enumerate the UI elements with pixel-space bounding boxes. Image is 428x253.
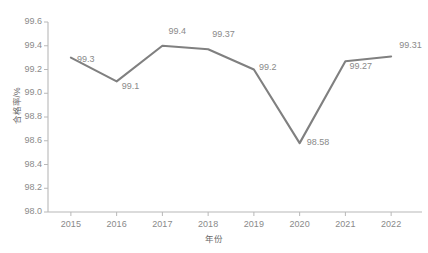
data-point-label: 99.37 [212,29,235,39]
x-tick-label: 2015 [46,219,96,229]
line-chart: 98.098.298.498.698.899.099.299.499.6 201… [0,0,428,253]
y-tick-label: 99.6 [2,16,42,26]
x-tick-label: 2019 [229,219,279,229]
x-tick-label: 2018 [183,219,233,229]
data-point-label: 99.2 [259,62,277,72]
x-tick-label: 2021 [320,219,370,229]
y-tick-label: 99.0 [2,87,42,97]
y-tick-label: 98.6 [2,135,42,145]
y-tick-label: 98.2 [2,182,42,192]
x-tick-label: 2020 [275,219,325,229]
data-point-label: 99.4 [168,26,186,36]
axes [48,22,422,212]
y-tick-label: 99.4 [2,40,42,50]
y-axis-title: 合格率/% [10,71,22,141]
tick-marks [44,22,391,216]
data-point-label: 99.31 [399,40,422,50]
data-line-series-1 [71,46,391,143]
data-point-label: 99.27 [349,61,372,71]
y-tick-label: 98.8 [2,111,42,121]
x-axis-title: 年份 [0,232,428,244]
x-tick-label: 2016 [92,219,142,229]
y-tick-label: 98.0 [2,206,42,216]
data-point-label: 98.58 [307,137,330,147]
data-point-label: 99.1 [122,81,140,91]
y-tick-label: 98.4 [2,159,42,169]
y-tick-label: 99.2 [2,64,42,74]
x-tick-label: 2022 [366,219,416,229]
data-point-label: 99.3 [77,54,95,64]
x-tick-label: 2017 [137,219,187,229]
